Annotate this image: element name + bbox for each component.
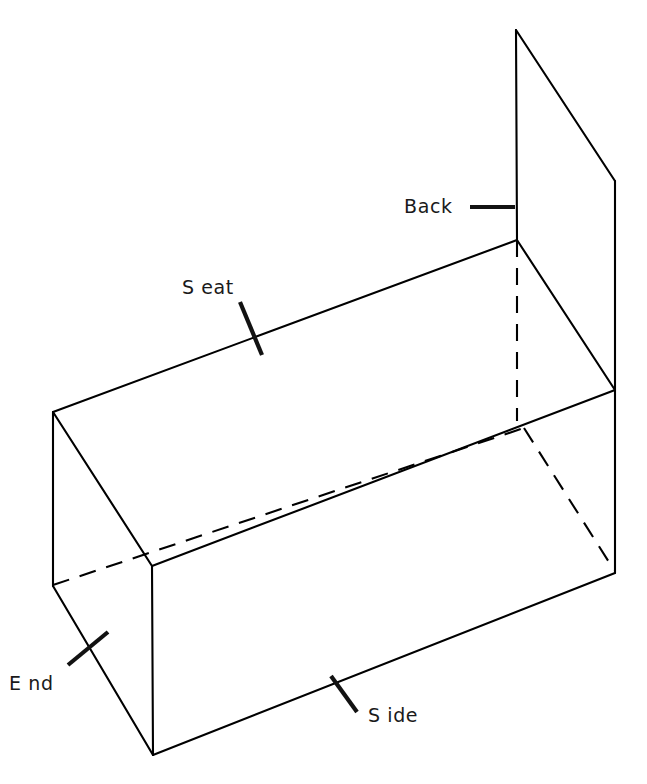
leader-tick-side: [331, 676, 357, 712]
label-back: Back: [404, 195, 453, 217]
label-seat: S eat: [182, 276, 234, 298]
label-end: E nd: [9, 672, 54, 694]
edge-front-corner-vertical: [152, 566, 153, 755]
bench-isometric-figure: Back S eat S ide E nd: [0, 0, 647, 784]
edge-back-top-left-vertical: [516, 30, 517, 240]
drawing-canvas: Back S eat S ide E nd: [0, 0, 647, 784]
label-side: S ide: [368, 704, 418, 726]
face-fills: [53, 30, 615, 755]
